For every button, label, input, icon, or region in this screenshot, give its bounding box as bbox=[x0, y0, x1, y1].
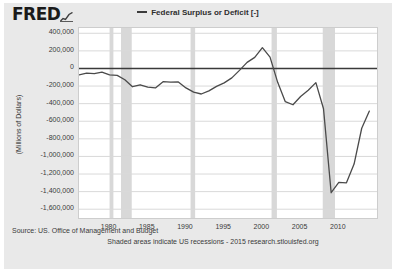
y-tick-label: -1,000,000 bbox=[10, 151, 74, 158]
y-tick-label: -600,000 bbox=[10, 116, 74, 123]
plot-area bbox=[78, 27, 378, 219]
chart-svg bbox=[79, 28, 377, 218]
y-tick-label: -1,600,000 bbox=[10, 204, 74, 211]
plot-area-wrapper bbox=[78, 27, 378, 219]
y-tick-label: 200,000 bbox=[10, 46, 74, 53]
recession-note-text: Shaded areas indicate US recessions - 20… bbox=[12, 236, 384, 247]
line-swatch-icon bbox=[137, 11, 147, 13]
y-tick-label: -1,400,000 bbox=[10, 187, 74, 194]
recession-bands bbox=[110, 28, 335, 218]
y-tick-label: -400,000 bbox=[10, 99, 74, 106]
chart-footer: Source: US. Office of Management and Bud… bbox=[12, 225, 384, 247]
source-text: Source: US. Office of Management and Bud… bbox=[12, 225, 384, 236]
chart-legend: Federal Surplus or Deficit [-] bbox=[4, 8, 392, 17]
y-tick-label: -800,000 bbox=[10, 134, 74, 141]
fred-chart-card: FRED Federal Surplus or Deficit [-] (Mil… bbox=[4, 3, 392, 269]
y-tick-label: 0 bbox=[10, 63, 74, 70]
y-tick-label: -1,200,000 bbox=[10, 169, 74, 176]
legend-label: Federal Surplus or Deficit [-] bbox=[151, 8, 259, 17]
chart-header: FRED Federal Surplus or Deficit [-] bbox=[4, 3, 392, 27]
y-tick-label: -200,000 bbox=[10, 81, 74, 88]
y-tick-label: 400,000 bbox=[10, 28, 74, 35]
